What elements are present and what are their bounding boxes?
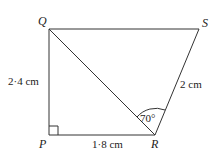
length-label-RS: 2 cm	[180, 78, 202, 90]
length-label-PR: 1·8 cm	[92, 138, 123, 150]
vertex-label-Q: Q	[38, 14, 47, 28]
geometry-diagram: Q S P R 2·4 cm 1·8 cm 2 cm 70°	[0, 0, 216, 154]
length-label-QP: 2·4 cm	[8, 75, 39, 87]
right-angle-marker	[49, 126, 58, 135]
vertex-label-S: S	[202, 16, 208, 30]
angle-label-R: 70°	[140, 112, 155, 124]
vertex-label-R: R	[150, 137, 159, 151]
vertex-label-P: P	[38, 137, 47, 151]
